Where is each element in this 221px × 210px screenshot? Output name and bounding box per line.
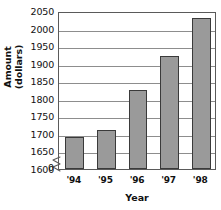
y-axis-tick-label: 1700 [18, 130, 54, 140]
x-axis-title: Year [58, 192, 216, 203]
x-axis-tick-label: '94 [58, 175, 90, 186]
x-axis-tick-labels: '94'95'96'97'98 [58, 175, 216, 189]
bar [160, 56, 179, 169]
y-axis-tick-label: 2050 [18, 7, 54, 17]
x-axis-tick-label: '98 [184, 175, 216, 186]
plot-area [58, 12, 216, 170]
x-axis-tick-label: '96 [121, 175, 153, 186]
y-axis-tick-label: 1950 [18, 42, 54, 52]
y-axis-tick-label: 1800 [18, 95, 54, 105]
y-axis-tick-label: 2000 [18, 25, 54, 35]
bar [65, 137, 84, 169]
y-axis-title-line1: Amount [3, 27, 14, 107]
bar [129, 90, 148, 169]
bars-layer [59, 13, 215, 169]
y-axis-tick-label: 1900 [18, 60, 54, 70]
x-axis-tick-label: '97 [153, 175, 185, 186]
y-axis-tick-labels: 2050200019501900185018001750170016501600 [18, 0, 54, 180]
y-axis-tick-label: 1850 [18, 77, 54, 87]
bar-chart: Amount (dollars) 20502000195019001850180… [0, 0, 221, 210]
y-axis-tick-label: 1750 [18, 112, 54, 122]
bar [192, 18, 211, 169]
y-axis-zero-label: 0 [18, 163, 54, 173]
bar [97, 130, 116, 169]
x-axis-tick-label: '95 [90, 175, 122, 186]
